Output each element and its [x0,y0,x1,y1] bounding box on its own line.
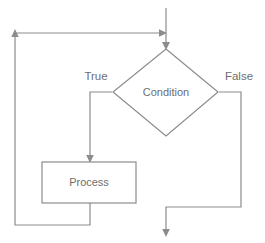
edge-label-true: True [84,70,107,82]
flowchart-svg: Condition True Process False [0,0,265,243]
edge-loopback-top [11,29,167,37]
flowchart-canvas: Condition True Process False [0,0,265,243]
condition-label: Condition [143,86,189,98]
edge-label-false: False [225,70,253,82]
node-condition[interactable]: Condition [113,49,218,136]
process-label: Process [69,176,109,188]
node-process[interactable]: Process [42,162,136,203]
edge-condition-false-arrowhead-icon [162,229,170,237]
edge-condition-true-line [90,92,112,159]
edge-condition-true [86,92,112,163]
edge-entry [162,8,170,50]
